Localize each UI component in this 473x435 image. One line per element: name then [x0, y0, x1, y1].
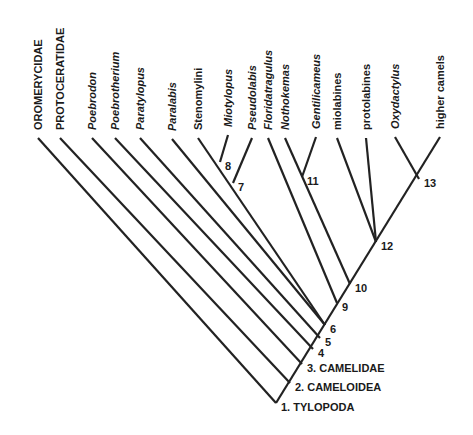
node-label-8: 8 [225, 160, 231, 172]
branch-nothokemas [285, 138, 350, 284]
taxon-label-13: protolabines [360, 64, 372, 130]
taxon-label-3: Poebrotherium [109, 52, 121, 130]
node-label-2: 2. CAMELOIDEA [295, 381, 381, 393]
branch-floridatragulus [268, 138, 337, 303]
taxon-label-7: Miotylopus [222, 69, 234, 127]
branch-3 [115, 138, 313, 349]
taxon-label-6: Stenomylini [192, 68, 204, 130]
branch-oxydactylus [395, 137, 419, 179]
taxon-label-2: Poebrodon [86, 72, 98, 130]
taxon-label-5: Paralabis [166, 82, 178, 131]
taxon-label-1: PROTOCERATIDAE [54, 28, 66, 130]
taxon-label-12: miolabines [331, 73, 343, 130]
node-label-13: 13 [424, 177, 436, 189]
branch-5 [172, 139, 325, 325]
taxon-label-15: higher camels [434, 55, 446, 129]
branch-2 [92, 138, 302, 364]
node-label-11: 11 [307, 175, 319, 187]
branch-pseudolabis [233, 138, 252, 183]
taxon-labels: OROMERYCIDAEPROTOCERATIDAEPoebrodonPoebr… [32, 28, 446, 131]
node-label-9: 9 [342, 301, 348, 313]
taxon-label-4: Paratylopus [134, 67, 146, 130]
branch-miotylopus [220, 135, 228, 162]
node-label-7: 7 [238, 181, 244, 193]
branch-1 [60, 138, 290, 383]
node-label-12: 12 [381, 240, 393, 252]
taxon-label-9: Floridatragulus [262, 50, 274, 130]
node-label-1: 1. TYLOPODA [281, 401, 354, 413]
node-label-10: 10 [355, 282, 367, 294]
taxon-label-10: Nothokemas [279, 64, 291, 130]
taxon-label-0: OROMERYCIDAE [32, 39, 44, 130]
node-label-4: 4 [318, 347, 325, 359]
branch-gentilicameus [302, 137, 316, 177]
node-label-3: 3. CAMELIDAE [307, 362, 385, 374]
node-label-6: 6 [330, 323, 336, 335]
taxon-label-14: Oxydactylus [389, 64, 401, 129]
taxon-label-11: Gentilicameus [310, 54, 322, 129]
cladogram: OROMERYCIDAEPROTOCERATIDAEPoebrodonPoebr… [0, 0, 473, 435]
taxon-label-8: Pseudolabis [246, 65, 258, 130]
node-label-5: 5 [325, 336, 331, 348]
